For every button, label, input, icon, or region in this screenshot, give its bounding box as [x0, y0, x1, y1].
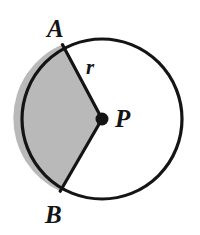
center-point-dot [96, 113, 109, 126]
geometry-figure: A r P B [0, 0, 200, 235]
circle-sector-svg [0, 0, 200, 235]
center-label-p: P [115, 106, 130, 131]
point-label-b: B [45, 202, 62, 227]
point-label-a: A [47, 16, 64, 41]
radius-label-r: r [86, 57, 94, 78]
